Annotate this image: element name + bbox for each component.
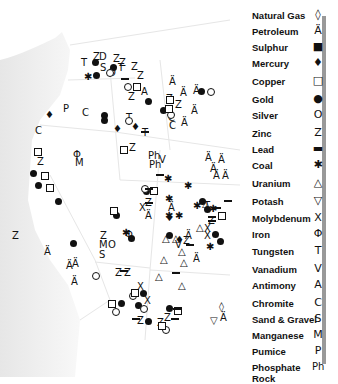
natural-gas-icon: ◊ [219,302,224,312]
coal-lump-icon: ✱ [164,174,172,184]
letter-a-icon: A [312,278,324,292]
mercury-drop-icon: ♦ [312,56,324,70]
western-us-mineral-map: TZDSZTOPCCZZZZAZZCCTTZPhVPhZΦMZXZMOSΦZVZ… [0,0,240,377]
petroleum-derrick-icon: Ä [181,118,188,128]
map-letter-symbol: Z [129,143,136,153]
legend-label: Uranium [252,178,291,189]
lead-bar-icon [132,318,140,320]
inverted-trapezoid-icon: ▽ [312,194,324,208]
letter-t-icon: T [312,244,324,258]
map-letter-symbol: C [35,126,42,136]
uranium-triangle-icon: △ [196,223,204,233]
coal-lump-icon: ✱ [122,228,130,238]
silver-circle-icon [92,272,100,280]
silver-circle-icon [124,83,132,91]
uranium-triangle-icon: △ [202,199,210,209]
map-letter-symbol: Z [128,92,135,102]
lead-bar-icon [172,272,180,274]
legend-label: Lead [252,144,274,155]
letter-s-icon: S [312,312,324,326]
copper-square-icon [133,83,141,91]
map-letter-symbol: C [82,108,89,118]
gold-dot-icon [35,182,42,189]
uranium-triangle-icon: △ [178,281,186,291]
open-square-icon: □ [312,74,324,88]
legend-label: Antimony [252,280,296,291]
lead-bar-icon [171,318,179,320]
petroleum-derrick-icon: Ä [71,277,78,287]
gold-dot-icon [217,238,224,245]
copper-square-icon [41,172,49,180]
letter-m-icon: M [312,328,324,342]
legend-label: Sulphur [252,42,288,53]
mercury-drop-icon: ♦ [113,124,122,134]
coal-lump-icon: ✱ [175,211,183,221]
lead-bar-icon [213,207,221,209]
coal-lump-icon: ✱ [184,181,192,191]
uranium-triangle-icon: △ [160,255,168,265]
petroleum-derrick-icon: Ä [44,247,51,257]
map-letter-symbol: Z [175,100,182,110]
uranium-triangle-icon: △ [162,234,170,244]
copper-square-icon [46,184,54,192]
coal-lump-icon: ✱ [312,158,324,172]
copper-square-icon [158,322,166,330]
petroleum-derrick-icon: Ä [169,77,176,87]
legend-item: TungstenT [236,242,322,262]
letters-ph-icon: Ph [312,360,324,374]
potash-icon: ▽ [210,316,218,326]
petroleum-derrick-icon: Ä [220,313,227,323]
map-letter-symbol: S [99,250,105,260]
legend-label: Copper [252,76,285,87]
map-letter-symbol: X [204,231,211,241]
gold-dot-icon [198,88,205,95]
filled-circle-icon: ● [312,92,324,106]
copper-square-icon [131,289,139,297]
coal-lump-icon: ✱ [165,194,173,204]
legend-item: Copper□ [236,72,322,92]
letter-p-icon: P [312,344,324,358]
legend-item: Uranium△ [236,174,322,194]
map-letter-symbol: Z [137,71,144,81]
legend-label: Iron [252,229,270,240]
gold-dot-icon [92,59,99,66]
map-letter-symbol: Z [100,231,107,241]
coal-lump-icon: ✱ [193,201,201,211]
gold-dot-icon [101,117,108,124]
x-icon: X [312,211,324,225]
legend-item: Coal✱ [236,156,322,176]
copper-square-icon [110,207,118,215]
lead-bar-icon [145,202,153,204]
legend-label: Silver [252,110,278,121]
map-letter-symbol: A [141,87,148,97]
gold-dot-icon [145,98,152,105]
gold-dot-icon [93,72,100,79]
legend-item: Mercury♦ [236,54,322,74]
lead-bar-icon [173,308,181,310]
letter-v-icon: V [312,262,324,276]
copper-square-icon [120,146,128,154]
lead-bar-icon [141,131,149,133]
lead-bar-icon [208,216,216,218]
silver-circle-icon [140,305,148,313]
gold-dot-icon [30,170,37,177]
lead-bar-icon [120,270,128,272]
filled-square-icon: ■ [312,40,324,54]
coal-lump-icon: ✱ [206,242,214,252]
map-letter-symbol: Ph [149,160,161,170]
silver-circle-icon [106,69,114,77]
legend-label: Sand & Gravel [252,314,317,325]
legend-label: Gold [252,94,274,105]
lead-bar-icon [186,244,194,246]
legend-label: Manganese [252,330,304,341]
petroleum-derrick-icon: Ä [180,88,187,98]
mercury-drop-icon: ♦ [131,122,140,132]
legend-label: Tungsten [252,246,294,257]
letter-z-icon: Z [312,126,324,140]
petroleum-derrick-icon: Ä [145,211,152,221]
triangle-icon: △ [312,176,324,190]
map-letter-symbol: D [99,52,107,62]
legend-label: Pumice [252,346,286,357]
legend-item: SilverO [236,106,322,126]
phi-icon: Φ [312,227,324,241]
